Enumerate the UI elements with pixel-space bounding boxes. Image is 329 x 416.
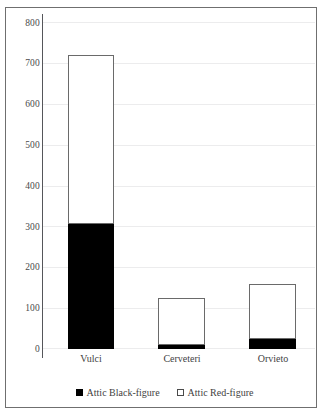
y-tick-label-300: 300 — [4, 222, 40, 232]
bar-cerveteri[interactable] — [158, 298, 205, 349]
bar-vulci-red-figure[interactable] — [68, 55, 114, 224]
y-tick-label-700: 700 — [4, 58, 40, 68]
bar-orvieto-black-figure[interactable] — [249, 339, 296, 349]
bar-vulci-black-figure[interactable] — [68, 224, 114, 349]
bar-vulci[interactable] — [68, 55, 114, 349]
y-tick-label-500: 500 — [4, 140, 40, 150]
y-tick-label-600: 600 — [4, 99, 40, 109]
bar-cerveteri-black-figure[interactable] — [158, 345, 205, 349]
legend-label-red-figure: Attic Red-figure — [188, 387, 254, 398]
filled-square-icon — [76, 389, 83, 396]
y-axis-labels: 800 700 600 500 400 300 200 100 0 — [0, 0, 40, 416]
y-tick-label-400: 400 — [4, 181, 40, 191]
x-tick-label-cerveteri: Cerveteri — [152, 353, 212, 365]
plot-area — [43, 22, 315, 349]
y-tick-label-0: 0 — [4, 344, 40, 354]
open-square-icon — [177, 389, 184, 396]
bar-orvieto-red-figure[interactable] — [249, 284, 296, 339]
gridline-800 — [43, 22, 315, 23]
chart-legend: Attic Black-figure Attic Red-figure — [0, 387, 329, 398]
chart-figure: 800 700 600 500 400 300 200 100 0 — [0, 0, 329, 416]
y-tick-label-100: 100 — [4, 303, 40, 313]
legend-label-black-figure: Attic Black-figure — [87, 387, 160, 398]
legend-item-black-figure[interactable]: Attic Black-figure — [76, 387, 160, 398]
x-tick-label-orvieto: Orvieto — [243, 353, 303, 365]
x-tick-label-vulci: Vulci — [62, 353, 120, 365]
y-tick-label-800: 800 — [4, 18, 40, 28]
bar-cerveteri-red-figure[interactable] — [158, 298, 205, 345]
bar-orvieto[interactable] — [249, 284, 296, 349]
y-tick-label-200: 200 — [4, 262, 40, 272]
legend-item-red-figure[interactable]: Attic Red-figure — [177, 387, 254, 398]
